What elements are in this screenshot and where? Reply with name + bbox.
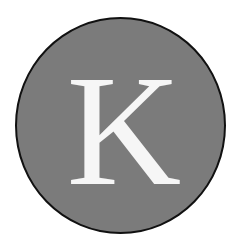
letter-badge: K xyxy=(0,0,240,249)
badge-letter: K xyxy=(67,51,182,210)
